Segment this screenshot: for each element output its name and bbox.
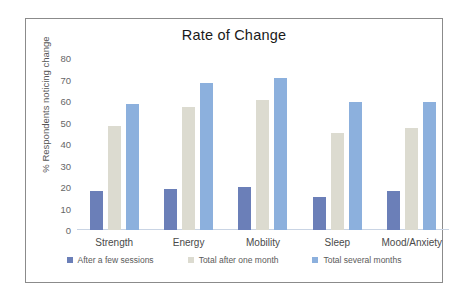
bar-group-bars bbox=[77, 58, 151, 230]
bar[interactable] bbox=[331, 133, 344, 230]
chart-frame: Rate of Change % Respondents noticing ch… bbox=[25, 18, 443, 283]
bar[interactable] bbox=[274, 78, 287, 230]
x-axis-category-label: Energy bbox=[173, 237, 205, 248]
legend-swatch-icon bbox=[188, 257, 194, 263]
bar[interactable] bbox=[182, 107, 195, 230]
legend-label: Total after one month bbox=[199, 255, 279, 265]
x-axis-category-label: Mood/Anxiety bbox=[381, 237, 442, 248]
bar[interactable] bbox=[387, 191, 400, 230]
y-axis-title: % Respondents noticing change bbox=[40, 30, 51, 180]
legend-label: After a few sessions bbox=[78, 255, 154, 265]
y-axis-tick-label: 70 bbox=[60, 74, 71, 85]
y-axis-tick-label: 20 bbox=[60, 182, 71, 193]
y-axis-tick-label: 50 bbox=[60, 117, 71, 128]
bar-group-bars bbox=[226, 58, 300, 230]
bar[interactable] bbox=[200, 83, 213, 230]
bar[interactable] bbox=[256, 100, 269, 230]
bar[interactable] bbox=[164, 189, 177, 230]
bar-group-bars bbox=[151, 58, 225, 230]
bar[interactable] bbox=[238, 187, 251, 230]
legend-item[interactable]: Total after one month bbox=[188, 255, 279, 265]
bar[interactable] bbox=[405, 128, 418, 230]
bar[interactable] bbox=[313, 197, 326, 230]
bar-group-bars bbox=[300, 58, 374, 230]
bar-group: Energy bbox=[151, 58, 225, 230]
y-axis-tick-label: 60 bbox=[60, 96, 71, 107]
bar-group: Sleep bbox=[300, 58, 374, 230]
chart-title: Rate of Change bbox=[26, 27, 442, 43]
legend-swatch-icon bbox=[312, 257, 318, 263]
bar[interactable] bbox=[423, 102, 436, 230]
y-axis-tick-label: 10 bbox=[60, 203, 71, 214]
plot-area: 80706050403020100 StrengthEnergyMobility… bbox=[77, 58, 449, 230]
legend-item[interactable]: Total several months bbox=[312, 255, 401, 265]
y-axis-tick-label: 30 bbox=[60, 160, 71, 171]
legend-label: Total several months bbox=[323, 255, 401, 265]
bar-group-bars bbox=[375, 58, 449, 230]
bar[interactable] bbox=[108, 126, 121, 230]
bar-group: Mood/Anxiety bbox=[375, 58, 449, 230]
chart-legend: After a few sessionsTotal after one mont… bbox=[25, 255, 443, 265]
bar-group: Mobility bbox=[226, 58, 300, 230]
bar-group: Strength bbox=[77, 58, 151, 230]
y-axis-tick-label: 0 bbox=[66, 225, 71, 236]
chart-figure: Rate of Change % Respondents noticing ch… bbox=[0, 0, 464, 297]
x-axis-category-label: Mobility bbox=[246, 237, 280, 248]
bar[interactable] bbox=[126, 104, 139, 230]
legend-swatch-icon bbox=[67, 257, 73, 263]
y-axis-tick-label: 40 bbox=[60, 139, 71, 150]
x-axis-category-label: Sleep bbox=[325, 237, 351, 248]
legend-item[interactable]: After a few sessions bbox=[67, 255, 154, 265]
x-axis-category-label: Strength bbox=[95, 237, 133, 248]
bar[interactable] bbox=[349, 102, 362, 230]
y-axis-tick-label: 80 bbox=[60, 53, 71, 64]
bar[interactable] bbox=[90, 191, 103, 230]
